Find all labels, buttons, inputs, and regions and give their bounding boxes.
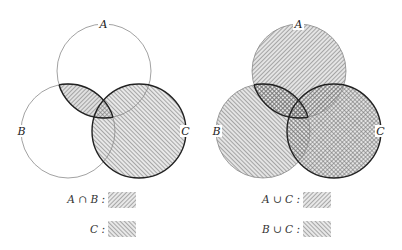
- left-venn: A B C: [16, 18, 191, 178]
- left-legend: A ∩ B : C :: [66, 192, 136, 237]
- right-label-b: B: [211, 125, 220, 138]
- venn-diagrams: A B C A ∩ B : C : A B: [0, 0, 402, 250]
- left-label-c: C: [181, 125, 190, 138]
- right-label-a: A: [294, 18, 303, 31]
- right-venn: A B C: [211, 18, 386, 178]
- left-label-a: A: [99, 18, 108, 31]
- right-label-c: C: [376, 125, 385, 138]
- legend-label-a-intersect-b: A ∩ B :: [66, 193, 105, 205]
- right-legend: A ∪ C : B ∪ C :: [261, 192, 331, 237]
- legend-label-a-union-c: A ∪ C :: [261, 193, 300, 205]
- left-label-b: B: [16, 125, 25, 138]
- legend-label-b-union-c: B ∪ C :: [261, 223, 300, 235]
- legend-label-c: C :: [90, 223, 105, 235]
